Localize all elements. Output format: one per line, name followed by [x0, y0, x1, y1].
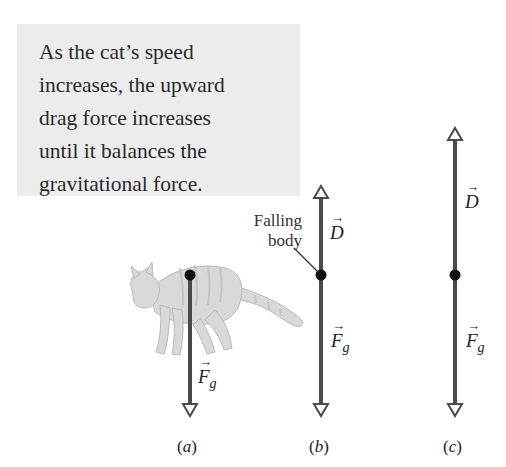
- annotation-line-2: body: [238, 231, 302, 251]
- leader-line: [294, 248, 318, 272]
- panel-label-b: (b): [309, 437, 329, 457]
- panel-label-a: (a): [177, 437, 197, 457]
- drag-force-label-b: →D: [330, 222, 344, 244]
- gravity-force-label-a: →Fg: [198, 366, 217, 392]
- panel-label-c: (c): [443, 437, 462, 457]
- gravity-force-label-b: →Fg: [331, 330, 350, 356]
- vector-arrow-icon: →: [199, 354, 212, 370]
- drag-force-label-c: →D: [465, 191, 479, 213]
- vector-diagram-c: [448, 128, 462, 416]
- gravity-force-label-c: →Fg: [466, 330, 485, 356]
- annotation-line-1: Falling: [238, 211, 302, 231]
- vector-arrow-icon: →: [467, 318, 480, 334]
- falling-body-annotation: Falling body: [238, 211, 302, 251]
- cat-illustration: [131, 262, 303, 355]
- vector-arrow-icon: →: [466, 179, 479, 195]
- vector-arrow-icon: →: [331, 210, 344, 226]
- vector-arrow-icon: →: [332, 318, 345, 334]
